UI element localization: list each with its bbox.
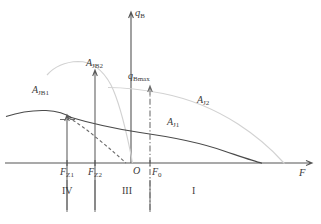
curve-label-q-bmax: qBmax [128,71,150,81]
region-label-iii: III [122,186,132,196]
tick-label-f-z1: FZ1 [60,167,74,177]
curve-label-a-j1: AJ1 [167,117,179,127]
tick-label-f-zero: F0 [152,167,162,177]
tick-label-f-z2: FZ2 [88,167,102,177]
y-axis [129,12,134,163]
x-axis [5,161,312,166]
figure-container: qB F FZ1 FZ2 O F0 AJB1 AJB2 AJ2 AJ1 qBma… [0,0,321,224]
curve-a-jb1 [6,110,72,118]
region-dividers [67,180,150,212]
tick-label-origin: O [133,166,140,176]
region-label-i: I [192,186,195,196]
curve-label-a-j2: AJ2 [197,95,209,105]
diagram-canvas [0,0,321,224]
region-label-iv: IV [62,186,73,196]
curve-label-a-jb1: AJB1 [32,85,49,95]
x-axis-label: F [299,168,305,179]
y-axis-label: qB [135,8,145,19]
curve-label-a-jb2: AJB2 [86,58,103,68]
